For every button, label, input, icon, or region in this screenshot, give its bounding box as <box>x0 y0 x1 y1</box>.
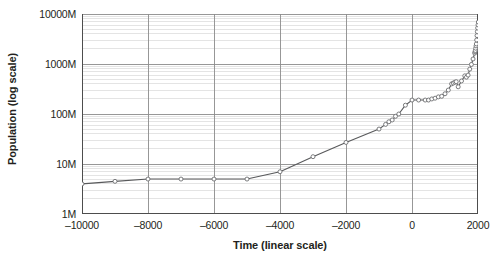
x-tick-label: –2000 <box>332 219 360 231</box>
x-tick-label: 0 <box>409 219 415 231</box>
x-axis-title: Time (linear scale) <box>82 239 478 251</box>
y-tick-label: 10M <box>24 158 76 170</box>
x-tick-label: –4000 <box>266 219 294 231</box>
x-tick-label: –10000 <box>65 219 99 231</box>
x-tick-label: 2000 <box>467 219 490 231</box>
y-axis-title: Population (log scale) <box>0 0 24 218</box>
population-chart-figure: Population (log scale) 1M10M100M1000M100… <box>0 0 495 265</box>
plot-area <box>82 14 478 214</box>
chart-canvas <box>82 14 478 214</box>
x-tick-label: –6000 <box>200 219 228 231</box>
x-axis-ticks: –10000–8000–6000–4000–200002000 <box>82 219 478 233</box>
y-tick-label: 1000M <box>24 58 76 70</box>
y-tick-label: 100M <box>24 108 76 120</box>
y-axis-title-text: Population (log scale) <box>6 53 18 165</box>
x-tick-label: –8000 <box>134 219 162 231</box>
y-tick-label: 10000M <box>24 8 76 20</box>
